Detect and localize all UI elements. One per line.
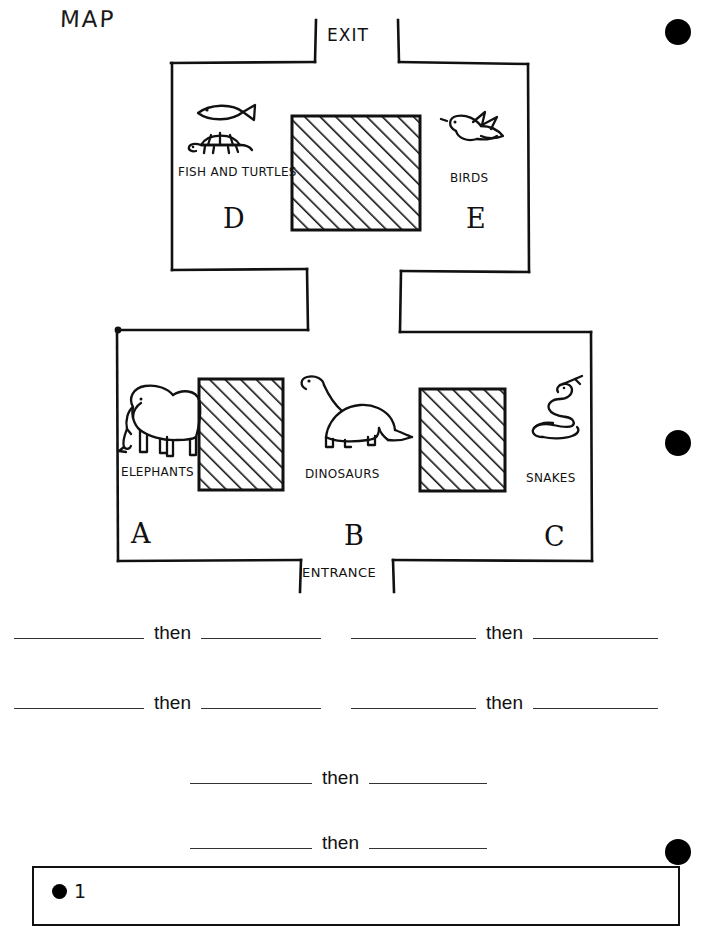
fish-icon (198, 105, 255, 120)
corridor-right-wall (400, 271, 401, 332)
bird-icon (441, 112, 503, 140)
lower-room-bottom-left-wall (118, 560, 301, 561)
upper-center-block (292, 116, 420, 230)
exhibit-label-dinosaurs: DINOSAURS (305, 467, 380, 481)
answer-blank[interactable] (190, 834, 312, 849)
bullet-dot-icon (52, 884, 67, 899)
then-label: then (312, 833, 369, 852)
then-label: then (312, 768, 369, 787)
lower-room-right-wall (591, 332, 592, 561)
turtle-icon (189, 133, 252, 153)
upper-room-top-left-wall (171, 62, 315, 63)
then-label: then (476, 623, 533, 642)
answer-blank[interactable] (369, 769, 487, 784)
room-letter-a: A (131, 518, 151, 549)
margin-dot-bottom (665, 839, 691, 865)
answer-blank[interactable] (533, 694, 658, 709)
elephant-icon (119, 386, 200, 456)
then-label: then (476, 693, 533, 712)
answer-blank[interactable] (201, 624, 321, 639)
entrance-door-jamb-left (300, 560, 301, 592)
answer-row-2: then then (14, 690, 658, 709)
answer-blank[interactable] (201, 694, 321, 709)
margin-dot-middle (665, 430, 691, 456)
lower-room-left-wall (117, 330, 118, 561)
exhibit-label-snakes: SNAKES (526, 471, 576, 485)
exit-door-jamb-left (315, 20, 316, 62)
answer-row-4: then (190, 830, 487, 849)
lower-left-block (199, 379, 283, 490)
zoo-floor-plan (0, 0, 718, 600)
margin-dot-top (665, 19, 691, 45)
exhibit-label-elephants: ELEPHANTS (121, 465, 194, 479)
exhibit-label-fish-and-turtles: FISH AND TURTLES (178, 165, 297, 179)
answer-blank[interactable] (533, 624, 658, 639)
answer-blank[interactable] (369, 834, 487, 849)
answer-row-3: then (190, 765, 487, 784)
dinosaur-icon (302, 376, 412, 447)
lower-right-block (420, 389, 505, 491)
corridor-left-wall (307, 269, 308, 330)
lower-room-bottom-right-wall (393, 560, 592, 561)
upper-room-bottom-right-wall (401, 271, 529, 272)
upper-room-bottom-left-wall (172, 269, 307, 270)
exhibit-label-birds: BIRDS (450, 171, 488, 185)
exit-door-label: EXIT (327, 25, 369, 45)
bottom-exercise-box (32, 866, 680, 926)
answer-blank[interactable] (14, 624, 144, 639)
pen-start-dot (115, 327, 122, 334)
upper-room-top-right-wall (399, 62, 528, 64)
snake-icon (533, 376, 582, 438)
entrance-door-label: ENTRANCE (302, 565, 376, 580)
room-letter-b: B (344, 520, 364, 551)
room-letter-c: C (544, 521, 565, 552)
exit-door-jamb-right (398, 20, 399, 62)
answer-row-1: then then (14, 620, 658, 639)
entrance-door-jamb-right (393, 560, 394, 592)
answer-blank[interactable] (351, 694, 476, 709)
then-label: then (144, 623, 201, 642)
upper-room-right-wall (528, 64, 529, 272)
bottom-box-number: 1 (74, 880, 86, 902)
answer-blank[interactable] (14, 694, 144, 709)
room-letter-d: D (223, 203, 245, 234)
answer-blank[interactable] (190, 769, 312, 784)
then-label: then (144, 693, 201, 712)
room-letter-e: E (466, 203, 486, 234)
answer-blank[interactable] (351, 624, 476, 639)
